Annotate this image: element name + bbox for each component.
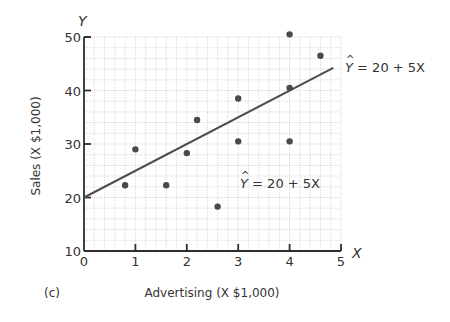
svg-text:2: 2 [183,254,191,269]
x-axis-label: Advertising (X $1,000) [144,286,279,300]
data-point [163,182,169,188]
panel-label: (c) [44,286,60,300]
y-axis-symbol: Y [78,13,88,29]
data-point [235,138,241,144]
y-axis-label: Sales (X $1,000) [29,96,43,195]
equation-label: Y = 20 + 5X [240,176,320,191]
data-point [184,150,190,156]
data-point [317,53,323,59]
svg-text:50: 50 [64,30,81,45]
svg-text:10: 10 [64,244,81,259]
svg-text:^: ^ [241,170,249,181]
data-point [122,182,128,188]
svg-text:0: 0 [80,254,88,269]
svg-text:5: 5 [337,254,345,269]
data-point [194,117,200,123]
svg-text:20: 20 [64,191,81,206]
data-point [286,31,292,37]
data-point [286,85,292,91]
svg-text:4: 4 [285,254,293,269]
scatter-chart: 1020304050012345 Y X Sales (X $1,000) Ad… [0,0,450,322]
data-point [286,138,292,144]
x-axis-symbol: X [351,245,362,261]
svg-text:1: 1 [131,254,139,269]
svg-text:30: 30 [64,137,81,152]
svg-text:40: 40 [64,84,81,99]
data-point [214,203,220,209]
data-point [132,146,138,152]
data-point [235,95,241,101]
equation-label: Y = 20 + 5X [345,60,425,75]
tick-labels: 1020304050012345 [64,30,345,269]
grid-lines [84,37,341,251]
svg-text:^: ^ [346,54,354,65]
svg-text:3: 3 [234,254,242,269]
